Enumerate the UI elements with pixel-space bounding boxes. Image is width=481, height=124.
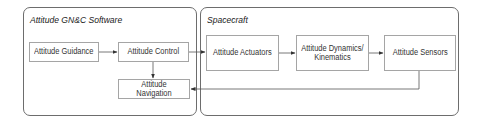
attitude-dynamics-block: Attitude Dynamics/ Kinematics (296, 35, 369, 71)
attitude-actuators-label: Attitude Actuators (213, 48, 272, 58)
attitude-dynamics-label: Attitude Dynamics/ Kinematics (301, 44, 363, 63)
spacecraft-panel-title: Spacecraft (207, 14, 248, 25)
attitude-guidance-label: Attitude Guidance (34, 47, 93, 57)
attitude-actuators-block: Attitude Actuators (206, 35, 279, 71)
attitude-control-block: Attitude Control (118, 42, 189, 62)
attitude-sensors-block: Attitude Sensors (384, 35, 456, 71)
software-panel-title: Attitude GN&C Software (30, 14, 122, 25)
attitude-guidance-block: Attitude Guidance (29, 42, 99, 62)
attitude-navigation-label: Attitude Navigation (123, 80, 185, 99)
attitude-sensors-label: Attitude Sensors (393, 48, 448, 58)
attitude-navigation-block: Attitude Navigation (118, 79, 190, 99)
attitude-control-label: Attitude Control (128, 47, 180, 57)
